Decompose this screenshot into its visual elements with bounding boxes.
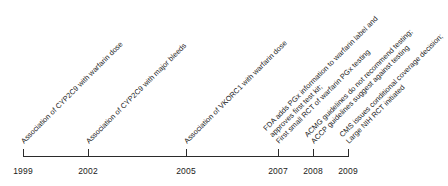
- tick-mark-2002: [88, 149, 89, 157]
- tick-label-2005: 2005: [176, 166, 196, 176]
- event-label-line: Association of CYP2C9 with warfarin dose: [19, 40, 125, 146]
- event-label-1999: Association of CYP2C9 with warfarin dose: [19, 40, 125, 146]
- tick-mark-2005: [186, 149, 187, 157]
- tick-mark-2007: [278, 149, 279, 157]
- tick-label-1999: 1999: [13, 166, 33, 176]
- tick-label-2007: 2007: [268, 166, 288, 176]
- tick-mark-2008: [313, 149, 314, 157]
- tick-label-2008: 2008: [303, 166, 323, 176]
- tick-label-2009: 2009: [338, 166, 358, 176]
- tick-mark-1999: [23, 149, 24, 157]
- tick-label-2002: 2002: [78, 166, 98, 176]
- tick-mark-2009: [348, 149, 349, 157]
